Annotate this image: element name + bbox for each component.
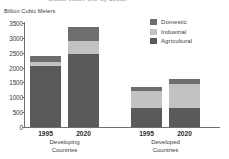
legend-label-agricultural: Agricultural	[161, 38, 192, 44]
x-tick-label: 2020	[64, 130, 104, 137]
legend: Domestic Industrial Agricultural	[150, 19, 192, 48]
bar-segment-agricultural	[169, 108, 200, 127]
bar-segment-industrial	[169, 84, 200, 108]
y-tick-mark	[22, 112, 24, 113]
x-tick-label: 2020	[165, 130, 205, 137]
y-tick-label: 3000	[1, 34, 23, 41]
legend-swatch-industrial	[150, 29, 157, 35]
y-tick-mark	[22, 97, 24, 98]
x-group-label-line2: Countries	[52, 147, 78, 153]
legend-item-domestic: Domestic	[150, 19, 192, 25]
y-tick-label: 1500	[1, 79, 23, 86]
x-group-label: DevelopingCountries	[30, 139, 100, 154]
bar-segment-industrial	[131, 91, 162, 108]
y-tick-mark	[22, 82, 24, 83]
y-tick-mark	[22, 127, 24, 128]
bar-segment-domestic	[68, 27, 99, 41]
bar-stack	[68, 27, 99, 127]
bar-stack	[131, 87, 162, 127]
legend-label-domestic: Domestic	[161, 19, 187, 25]
y-tick-mark	[22, 23, 24, 24]
x-group-label: DevelopedCountries	[131, 139, 201, 154]
x-group-label-line1: Developed	[151, 139, 180, 145]
legend-swatch-agricultural	[150, 38, 157, 44]
bar-segment-agricultural	[131, 108, 162, 127]
water-use-stacked-bar-chart: Global Water Use by Sector Billion Cubic…	[0, 0, 229, 159]
x-axis-line	[24, 127, 220, 128]
y-axis-line	[24, 22, 25, 128]
y-tick-label: 3500	[1, 20, 23, 27]
legend-item-industrial: Industrial	[150, 29, 192, 35]
legend-item-agricultural: Agricultural	[150, 38, 192, 44]
plot-area: 3500300025002000150010005000 19952020Dev…	[0, 0, 229, 159]
y-tick-mark	[22, 68, 24, 69]
y-tick-mark	[22, 38, 24, 39]
y-tick-label: 2000	[1, 64, 23, 71]
bar-segment-industrial	[68, 41, 99, 54]
legend-label-industrial: Industrial	[161, 29, 186, 35]
bar-stack	[30, 56, 61, 127]
bar-segment-agricultural	[30, 66, 61, 127]
legend-swatch-domestic	[150, 19, 157, 25]
y-tick-label: 500	[1, 109, 23, 116]
y-axis-ticks: 3500300025002000150010005000	[0, 0, 23, 159]
bar-segment-agricultural	[68, 54, 99, 127]
y-tick-label: 1000	[1, 94, 23, 101]
y-tick-label: 0	[1, 124, 23, 131]
x-group-label-line2: Countries	[153, 147, 179, 153]
y-tick-mark	[22, 53, 24, 54]
x-tick-label: 1995	[26, 130, 66, 137]
bar-stack	[169, 79, 200, 127]
y-tick-label: 2500	[1, 49, 23, 56]
x-tick-label: 1995	[127, 130, 167, 137]
x-group-label-line1: Developing	[49, 139, 79, 145]
